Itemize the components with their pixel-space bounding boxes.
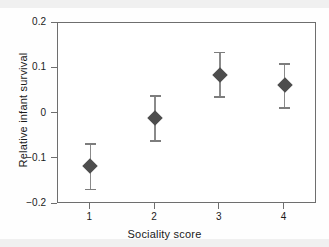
error-bar-cap-lower [214,96,225,97]
y-axis-tick-label: 0.1 [32,62,46,72]
error-bar-cap-lower [279,107,290,108]
error-bar-cap-upper [279,63,290,64]
y-axis-tick-label: 0 [40,108,46,118]
y-axis-tick-label: 0.2 [32,17,46,27]
x-axis-tick-label: 1 [79,212,99,222]
scan-edge-band-top [0,0,329,8]
x-axis-tick-mark [218,203,219,209]
data-point-marker [277,78,293,94]
error-bar-cap-upper [85,143,96,144]
data-point-marker [83,159,99,175]
plot-area [57,22,316,203]
error-bar-cap-upper [150,95,161,96]
x-axis-tick-mark [283,203,284,209]
error-bar-cap-upper [214,52,225,53]
x-axis-tick-label: 2 [144,212,164,222]
y-axis-title: Relative infant survival [17,25,29,195]
error-bar-cap-lower [150,140,161,141]
error-bar-cap-lower [85,189,96,190]
x-axis-tick-label: 4 [274,212,294,222]
x-axis-tick-mark [154,203,155,209]
data-point-marker [212,67,228,83]
data-point-marker [147,110,163,126]
x-axis-tick-mark [89,203,90,209]
y-axis-tick-label: −0.1 [26,153,46,163]
y-axis-tick-label: −0.2 [26,198,46,208]
x-axis-title: Sociality score [0,228,329,240]
chart-figure: 0.20.10−0.1−0.2 1234 Sociality score Rel… [0,0,329,247]
scan-edge-band-bottom [0,239,329,247]
x-axis-tick-label: 3 [209,212,229,222]
